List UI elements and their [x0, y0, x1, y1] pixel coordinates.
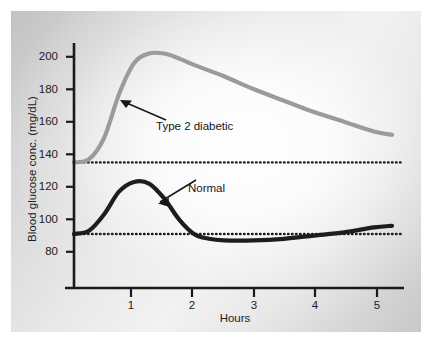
x-tick-label-1: 1 — [116, 299, 146, 311]
chart-figure: 200 180 160 140 120 100 80 1 2 3 4 5 Blo… — [0, 0, 433, 346]
x-tick-label-4: 4 — [300, 299, 330, 311]
x-tick-label-5: 5 — [362, 299, 392, 311]
annotation-label-normal: Normal — [188, 182, 225, 194]
series-line-type-2-diabetic — [74, 53, 392, 163]
y-axis-title: Blood glucose conc. (mg/dL) — [26, 74, 38, 264]
x-tick-label-2: 2 — [177, 299, 207, 311]
annotation-label-type-2-diabetic: Type 2 diabetic — [156, 120, 233, 132]
chart-plot-area — [0, 0, 433, 346]
x-tick-label-3: 3 — [239, 299, 269, 311]
x-axis-title: Hours — [190, 312, 280, 324]
series-line-normal — [74, 181, 392, 241]
y-tick-label-200: 200 — [26, 50, 58, 62]
